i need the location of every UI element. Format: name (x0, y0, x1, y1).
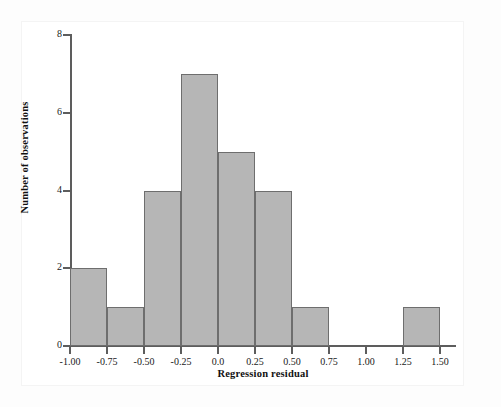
x-tick-mark (365, 347, 367, 354)
x-tick-mark (328, 347, 330, 354)
y-tick-mark (63, 190, 70, 192)
x-tick-mark (143, 347, 145, 354)
y-tick-mark (63, 267, 70, 269)
histogram-bar (403, 307, 440, 346)
y-tick-label: 0 (36, 339, 62, 350)
y-tick-label: 2 (36, 261, 62, 272)
histogram-plot: Number of observations 02468 -1.00-0.75-… (0, 0, 501, 407)
x-tick-mark (69, 347, 71, 354)
y-tick-mark (63, 34, 70, 36)
x-tick-mark (180, 347, 182, 354)
x-tick-mark (254, 347, 256, 354)
y-tick-mark (63, 112, 70, 114)
x-tick-mark (217, 347, 219, 354)
histogram-bar (292, 307, 329, 346)
x-axis-title: Regression residual (70, 368, 456, 379)
x-tick-label: 1.50 (416, 356, 464, 367)
y-axis-title: Number of observations (19, 78, 30, 238)
histogram-bar (181, 74, 218, 346)
histogram-bar (107, 307, 144, 346)
histogram-bar (70, 268, 107, 346)
x-tick-mark (106, 347, 108, 354)
x-tick-mark (402, 347, 404, 354)
y-tick-label: 4 (36, 184, 62, 195)
histogram-bar (218, 152, 255, 346)
histogram-bar (255, 191, 292, 347)
y-tick-label: 8 (36, 28, 62, 39)
x-tick-mark (439, 347, 441, 354)
histogram-bar (144, 191, 181, 347)
y-tick-label: 6 (36, 106, 62, 117)
x-tick-mark (291, 347, 293, 354)
figure-root: Number of observations 02468 -1.00-0.75-… (0, 0, 501, 407)
